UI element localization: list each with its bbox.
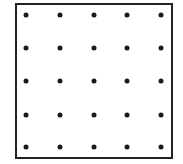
grid-dot [24,46,29,51]
grid-dot [92,145,97,150]
grid-dot [125,145,130,150]
grid-dot [159,79,164,84]
grid-dot [92,13,97,18]
grid-dot [159,13,164,18]
grid-dot [159,46,164,51]
grid-dot [58,13,63,18]
grid-dot [125,13,130,18]
grid-dot [159,145,164,150]
grid-dot [125,79,130,84]
grid-dot [58,46,63,51]
grid-dot [92,113,97,118]
grid-dot [58,145,63,150]
grid-dot [92,46,97,51]
grid-dot [58,79,63,84]
grid-dot [92,79,97,84]
grid-dot [58,113,63,118]
grid-dot [159,113,164,118]
grid-dot [24,13,29,18]
grid-dot [125,46,130,51]
grid-dot [125,113,130,118]
grid-dot [24,113,29,118]
grid-dot [24,145,29,150]
grid-dot [24,79,29,84]
